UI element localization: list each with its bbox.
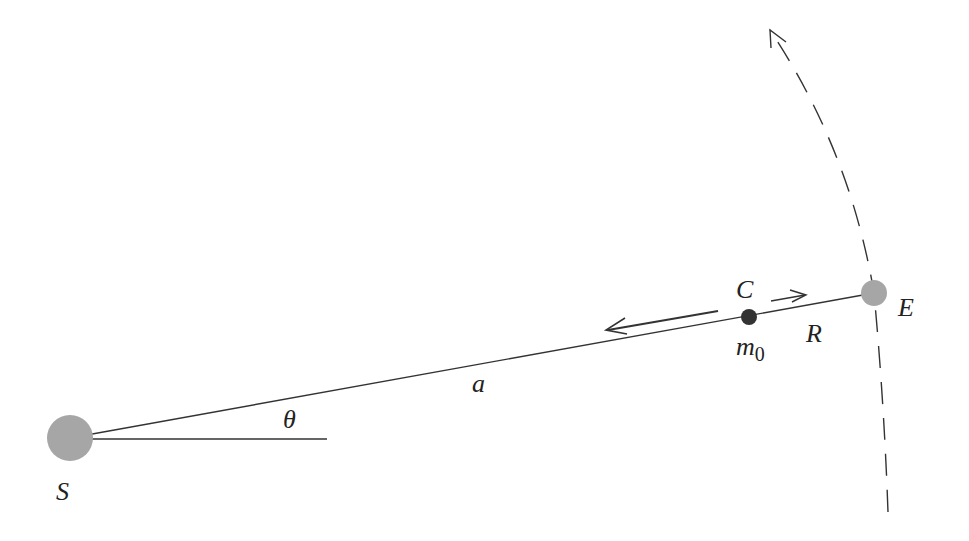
earth-body (861, 280, 887, 306)
label-center: C (736, 275, 754, 304)
label-mass-m: m (736, 332, 755, 361)
sun-body (47, 415, 93, 461)
label-theta: θ (283, 405, 296, 434)
label-earth: E (897, 293, 914, 322)
label-sun: S (56, 477, 69, 506)
orbit-diagram: S E C R a θ m0 (0, 0, 969, 541)
force-arrow-left (608, 311, 718, 330)
label-a: a (472, 369, 485, 398)
orbit-arc (770, 30, 888, 512)
mass-body (741, 309, 757, 325)
force-arrowhead-left (606, 318, 627, 334)
label-R: R (805, 319, 822, 348)
orbit-arrowhead (770, 30, 786, 48)
label-mass: m0 (736, 332, 765, 365)
label-mass-subscript: 0 (755, 343, 765, 365)
